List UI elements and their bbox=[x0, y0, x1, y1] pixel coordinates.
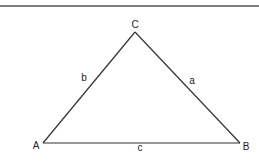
triangle-diagram: C A B b a c bbox=[0, 0, 259, 166]
side-b-line bbox=[43, 32, 135, 143]
side-label-c: c bbox=[138, 142, 143, 153]
vertex-label-b: B bbox=[243, 141, 250, 152]
side-a-line bbox=[135, 32, 240, 143]
vertex-label-a: A bbox=[33, 140, 40, 151]
vertex-label-c: C bbox=[131, 19, 138, 30]
side-label-a: a bbox=[189, 75, 195, 86]
side-label-b: b bbox=[81, 72, 87, 83]
